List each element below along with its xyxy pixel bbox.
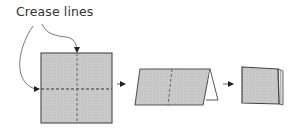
origami-fold-diagram [0,0,299,130]
step-3-folded-in-quarters [242,67,283,105]
leader-arrow-vertical-crease [42,24,77,52]
step-2-folded-in-half [135,69,218,105]
leader-arrow-horizontal-crease [20,26,39,89]
step-1-flat-square [41,53,112,123]
